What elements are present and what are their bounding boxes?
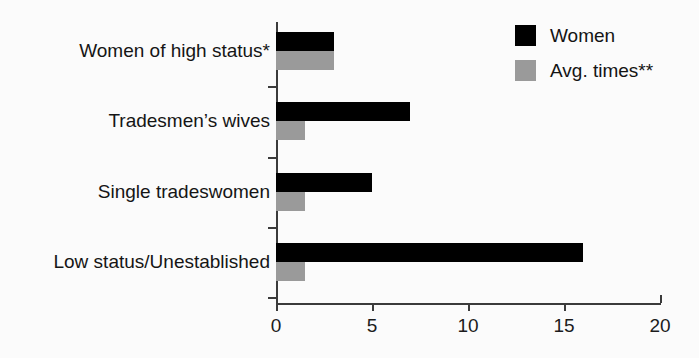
x-axis-tick-label: 0 bbox=[271, 315, 282, 337]
x-axis-tick-label: 10 bbox=[457, 315, 478, 337]
bar-avg-times bbox=[276, 121, 305, 140]
legend-label-avg-times: Avg. times** bbox=[550, 60, 653, 82]
bar-women bbox=[276, 173, 372, 192]
bar-avg-times bbox=[276, 51, 334, 70]
legend-item-women: Women bbox=[515, 18, 695, 53]
category-label: Low status/Unestablished bbox=[53, 251, 270, 273]
x-axis-tick-label: 5 bbox=[367, 315, 378, 337]
black-square-swatch bbox=[515, 25, 536, 46]
bar-women bbox=[276, 102, 410, 121]
y-axis-tick bbox=[268, 297, 276, 299]
x-axis-tick bbox=[564, 303, 566, 311]
x-axis-tick-label: 20 bbox=[649, 315, 670, 337]
y-axis-tick bbox=[268, 86, 276, 88]
bar-avg-times bbox=[276, 192, 305, 211]
category-label: Single tradeswomen bbox=[98, 181, 270, 203]
legend-item-avg-times: Avg. times** bbox=[515, 53, 695, 88]
x-axis-tick bbox=[276, 303, 278, 311]
chart-legend: Women Avg. times** bbox=[515, 18, 695, 88]
legend-label-women: Women bbox=[550, 25, 615, 47]
x-axis-tick-label: 15 bbox=[553, 315, 574, 337]
y-axis-tick bbox=[268, 157, 276, 159]
x-axis-tick bbox=[372, 303, 374, 311]
category-label: Tradesmen’s wives bbox=[108, 110, 270, 132]
category-label: Women of high status* bbox=[79, 40, 270, 62]
x-axis-tick bbox=[468, 303, 470, 311]
horizontal-bar-chart: 05101520 Women of high status*Tradesmen’… bbox=[0, 0, 699, 358]
x-axis-tick bbox=[276, 295, 278, 303]
bar-women bbox=[276, 243, 583, 262]
bar-avg-times bbox=[276, 262, 305, 281]
y-axis-tick bbox=[268, 227, 276, 229]
bar-women bbox=[276, 32, 334, 51]
gray-square-swatch bbox=[515, 60, 536, 81]
x-axis-tick bbox=[660, 295, 662, 303]
